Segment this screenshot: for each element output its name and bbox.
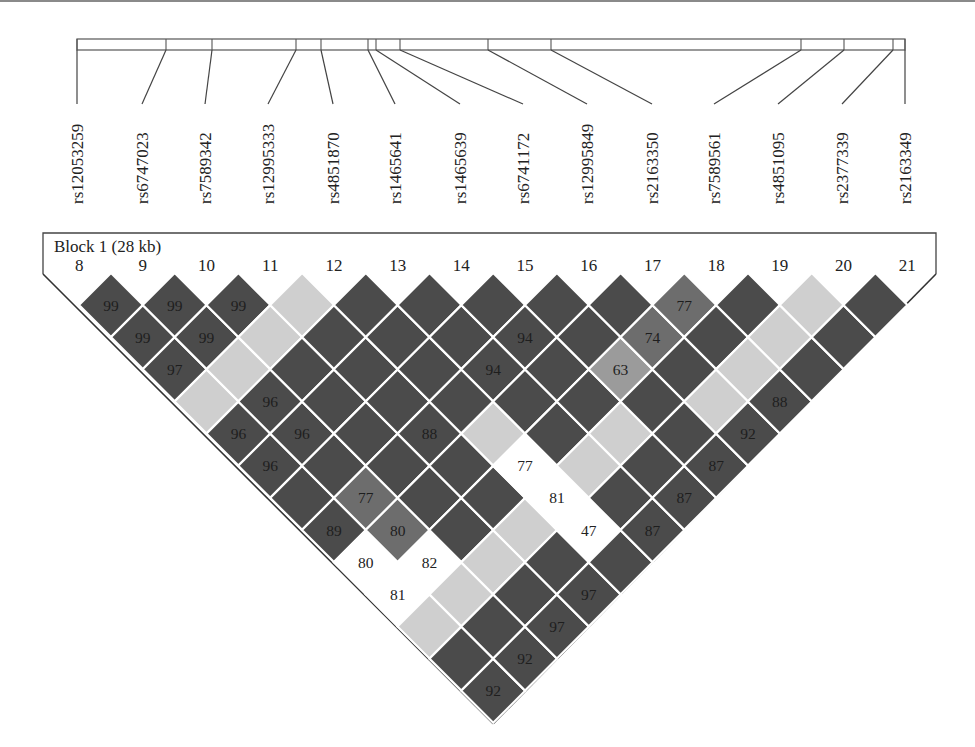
snp-connector-line bbox=[321, 50, 333, 104]
ld-value: 77 bbox=[358, 489, 374, 506]
ld-value: 88 bbox=[772, 393, 788, 410]
ld-value: 96 bbox=[263, 457, 279, 474]
marker-numbers: 89101112131415161718192021 bbox=[75, 256, 916, 275]
ld-value: 88 bbox=[422, 425, 438, 442]
ld-value: 92 bbox=[485, 682, 501, 699]
ld-value: 99 bbox=[231, 297, 247, 314]
marker-number: 17 bbox=[644, 256, 662, 275]
marker-number: 18 bbox=[708, 256, 725, 275]
marker-number: 9 bbox=[139, 256, 148, 275]
block-label: Block 1 (28 kb) bbox=[54, 237, 161, 256]
snp-label: rs2163349 bbox=[896, 132, 915, 204]
snp-label: rs7589342 bbox=[196, 132, 215, 204]
marker-number: 16 bbox=[580, 256, 597, 275]
ld-value: 80 bbox=[358, 554, 374, 571]
ld-value: 96 bbox=[231, 425, 247, 442]
snp-connector-line bbox=[368, 50, 395, 104]
block-frame bbox=[43, 233, 936, 274]
marker-number: 12 bbox=[325, 256, 342, 275]
ld-value: 63 bbox=[613, 361, 629, 378]
ld-value: 97 bbox=[167, 361, 183, 378]
snp-label: rs4851870 bbox=[324, 132, 343, 204]
marker-number: 14 bbox=[453, 256, 471, 275]
snp-label: rs12053259 bbox=[68, 124, 87, 204]
snp-connector-line bbox=[551, 50, 652, 104]
snp-label: rs2377339 bbox=[833, 132, 852, 204]
marker-number: 13 bbox=[389, 256, 406, 275]
ld-value: 47 bbox=[581, 522, 597, 539]
ld-value: 81 bbox=[549, 489, 565, 506]
ld-value: 87 bbox=[645, 522, 661, 539]
ld-value: 87 bbox=[708, 457, 724, 474]
snp-connector-line bbox=[488, 50, 587, 104]
snp-connector-line bbox=[268, 50, 296, 104]
ld-value: 99 bbox=[135, 329, 151, 346]
snp-label: rs6747023 bbox=[133, 132, 152, 204]
position-bar bbox=[77, 39, 905, 50]
ld-value: 89 bbox=[326, 522, 342, 539]
ld-value: 92 bbox=[517, 650, 533, 667]
snp-label: rs2163350 bbox=[643, 132, 662, 204]
ld-value: 92 bbox=[740, 425, 756, 442]
ld-value: 74 bbox=[645, 329, 661, 346]
marker-number: 11 bbox=[262, 256, 278, 275]
ld-value: 82 bbox=[422, 554, 438, 571]
marker-number: 20 bbox=[835, 256, 852, 275]
ld-value: 99 bbox=[199, 329, 215, 346]
ld-value: 94 bbox=[517, 329, 533, 346]
ld-value: 77 bbox=[517, 457, 533, 474]
snp-label: rs1465639 bbox=[451, 132, 470, 204]
physical-position-bar bbox=[77, 39, 905, 104]
snp-labels: rs12053259rs6747023rs7589342rs12995333rs… bbox=[68, 124, 915, 204]
snp-label: rs12995849 bbox=[578, 124, 597, 204]
marker-number: 19 bbox=[771, 256, 788, 275]
snp-connector-line bbox=[205, 50, 212, 104]
ld-plot: rs12053259rs6747023rs7589342rs12995333rs… bbox=[0, 0, 975, 747]
marker-number: 15 bbox=[517, 256, 534, 275]
snp-label: rs12995333 bbox=[259, 124, 278, 204]
snp-connector-line bbox=[842, 50, 893, 104]
ld-value: 96 bbox=[294, 425, 310, 442]
snp-label: rs7589561 bbox=[705, 132, 724, 204]
ld-value: 96 bbox=[263, 393, 279, 410]
marker-number: 8 bbox=[75, 256, 84, 275]
snp-label: rs4851095 bbox=[769, 132, 788, 204]
ld-value: 81 bbox=[390, 586, 406, 603]
snp-label: rs1465641 bbox=[386, 132, 405, 204]
ld-matrix: 9999979696898081929999969677808292999788… bbox=[79, 273, 907, 723]
marker-number: 21 bbox=[899, 256, 916, 275]
ld-value: 99 bbox=[103, 297, 119, 314]
ld-value: 97 bbox=[549, 618, 565, 635]
ld-value: 97 bbox=[581, 586, 597, 603]
snp-label: rs6741172 bbox=[514, 133, 533, 204]
ld-value: 99 bbox=[167, 297, 183, 314]
ld-value: 77 bbox=[677, 297, 693, 314]
ld-value: 94 bbox=[485, 361, 501, 378]
snp-connector-line bbox=[142, 50, 166, 104]
ld-value: 80 bbox=[390, 522, 406, 539]
marker-number: 10 bbox=[198, 256, 215, 275]
ld-value: 87 bbox=[677, 489, 693, 506]
